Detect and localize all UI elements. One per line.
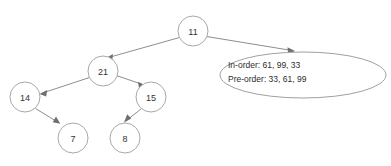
tree-node-14[interactable]: 14 <box>10 82 40 112</box>
edge-line <box>109 38 180 58</box>
edge-line <box>43 78 90 94</box>
tree-node-21[interactable]: 21 <box>88 56 118 86</box>
edge-arrowhead <box>40 90 48 97</box>
edge-15-to-8 <box>124 109 141 123</box>
edge-11-to-callout <box>207 37 296 54</box>
edge-21-to-14 <box>40 78 90 97</box>
tree-node-7[interactable]: 7 <box>58 123 88 153</box>
nodes-group: 11 21 14 15 7 8 <box>10 16 208 153</box>
node-label: 21 <box>98 67 108 77</box>
node-label: 7 <box>70 134 75 144</box>
tree-node-15[interactable]: 15 <box>136 82 166 112</box>
node-label: 11 <box>188 27 197 37</box>
edge-line <box>207 37 293 51</box>
tree-node-11[interactable]: 11 <box>178 16 208 46</box>
edge-14-to-7 <box>36 109 61 124</box>
edge-arrowhead <box>124 114 131 122</box>
node-label: 15 <box>146 93 156 103</box>
edge-11-to-21 <box>106 38 180 61</box>
diagram-svg: 11 21 14 15 7 8 <box>0 0 391 166</box>
traversal-callout[interactable]: In-order: 61, 99, 33 Pre-order: 33, 61, … <box>220 52 386 98</box>
callout-inorder-text: In-order: 61, 99, 33 <box>228 60 301 70</box>
tree-diagram-canvas: 11 21 14 15 7 8 <box>0 0 391 166</box>
callout-preorder-text: Pre-order: 33, 61, 99 <box>228 74 307 84</box>
tree-node-8[interactable]: 8 <box>110 123 140 153</box>
node-label: 8 <box>122 134 127 144</box>
node-label: 14 <box>20 93 30 103</box>
